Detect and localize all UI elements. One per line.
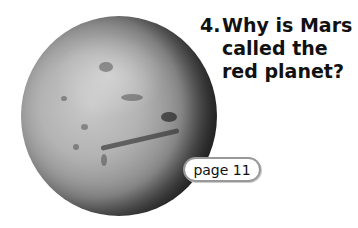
- question-line-1: 4.Why is Mars: [200, 14, 352, 37]
- crater: [99, 62, 113, 72]
- crater: [101, 154, 107, 166]
- page-reference-label: page 11: [193, 162, 250, 178]
- valley-streak: [100, 128, 179, 151]
- crater: [81, 124, 88, 130]
- question-text: 4.Why is Mars called the red planet?: [200, 14, 352, 83]
- question-number: 4.: [200, 14, 222, 37]
- page-reference-badge: page 11: [183, 157, 261, 182]
- crater: [73, 144, 79, 150]
- question-line-3: red planet?: [200, 60, 352, 83]
- crater: [121, 94, 143, 101]
- crater: [161, 112, 177, 122]
- crater: [61, 96, 67, 101]
- mars-planet-image: [21, 16, 217, 216]
- question-line-2: called the: [200, 37, 352, 60]
